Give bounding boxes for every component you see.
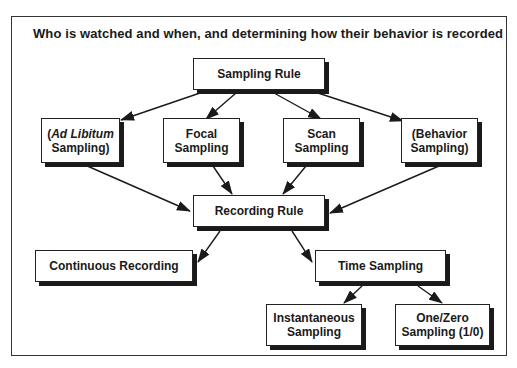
arrow-sampling-to-focal	[206, 93, 236, 119]
node-behavior-sampling: (Behavior Sampling)	[401, 118, 478, 163]
node-sampling-rule-label: Sampling Rule	[217, 67, 300, 81]
node-one-zero-sampling: One/Zero Sampling (1/0)	[395, 304, 490, 346]
node-recording-rule: Recording Rule	[193, 195, 325, 227]
arrow-recording-to-continuous	[198, 231, 220, 262]
node-instantaneous-sampling: Instantaneous Sampling	[266, 304, 362, 346]
ad-libitum-italic: Ad Libitum	[51, 127, 114, 141]
arrow-sampling-to-scan	[274, 93, 321, 119]
node-focal-sampling: Focal Sampling	[163, 118, 240, 163]
arrow-time-to-instantaneous	[344, 286, 362, 303]
arrow-behavior-to-recording	[330, 166, 439, 213]
arrow-recording-to-time	[292, 231, 312, 262]
arrow-sampling-to-behavior	[318, 93, 403, 121]
node-time-sampling: Time Sampling	[315, 250, 446, 282]
arrow-adlib-to-recording	[85, 165, 190, 211]
node-sampling-rule: Sampling Rule	[193, 58, 325, 90]
arrow-focal-to-recording	[213, 166, 232, 194]
node-continuous-recording: Continuous Recording	[35, 250, 193, 282]
node-scan-sampling: Scan Sampling	[283, 118, 360, 163]
node-ad-libitum-sampling: (Ad Libitum Sampling)	[41, 118, 120, 163]
arrow-sampling-to-adlib	[121, 93, 200, 120]
arrow-scan-to-recording	[283, 166, 306, 194]
arrow-time-to-onezero	[418, 286, 442, 303]
